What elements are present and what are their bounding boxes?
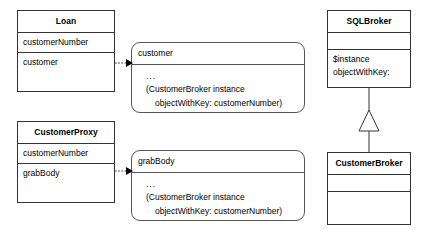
class-title-loan: Loan bbox=[18, 11, 114, 33]
class-attribute: grabBody bbox=[23, 167, 109, 180]
note-line: ... bbox=[146, 70, 298, 84]
class-attributes-customer-proxy: customerNumber bbox=[18, 144, 114, 164]
class-box-loan[interactable]: Loan customerNumber customer bbox=[17, 10, 115, 92]
note-line: objectWithKey: customerNumber) bbox=[146, 205, 298, 219]
note-line: ... bbox=[146, 178, 298, 192]
class-title-customer-proxy: CustomerProxy bbox=[18, 122, 114, 144]
class-box-customer-broker[interactable]: CustomerBroker bbox=[327, 152, 411, 225]
class-operation: objectWithKey: bbox=[333, 66, 405, 79]
note-line: objectWithKey: customerNumber) bbox=[146, 97, 298, 111]
class-box-customer-proxy[interactable]: CustomerProxy customerNumber grabBody bbox=[17, 121, 115, 203]
diagram-canvas: Loan customerNumber customer CustomerPro… bbox=[0, 0, 428, 240]
class-operations-customer-proxy: grabBody bbox=[18, 164, 114, 202]
note-line: (CustomerBroker instance bbox=[146, 191, 298, 205]
note-body-grab-body: ... (CustomerBroker instance objectWithK… bbox=[132, 173, 304, 222]
class-operations-loan: customer bbox=[18, 53, 114, 91]
class-attribute: customer bbox=[23, 56, 109, 69]
note-line: ... bbox=[146, 110, 298, 113]
generalization-triangle-icon bbox=[359, 110, 379, 131]
note-box-grab-body[interactable]: grabBody ... (CustomerBroker instance ob… bbox=[131, 150, 305, 221]
note-body-customer: ... (CustomerBroker instance objectWithK… bbox=[132, 65, 304, 114]
note-header-customer: customer bbox=[132, 43, 304, 65]
note-line: (CustomerBroker instance bbox=[146, 83, 298, 97]
class-attributes-loan: customerNumber bbox=[18, 33, 114, 53]
note-line: ... bbox=[146, 218, 298, 221]
class-attribute: customerNumber bbox=[23, 36, 109, 49]
class-attributes-sql-broker bbox=[328, 33, 410, 50]
note-header-grab-body: grabBody bbox=[132, 151, 304, 173]
class-operations-sql-broker: $instance objectWithKey: bbox=[328, 50, 410, 88]
class-box-sql-broker[interactable]: SQLBroker $instance objectWithKey: bbox=[327, 10, 411, 88]
note-box-customer[interactable]: customer ... (CustomerBroker instance ob… bbox=[131, 42, 305, 113]
class-operation: $instance bbox=[333, 53, 405, 66]
class-attribute: customerNumber bbox=[23, 147, 109, 160]
class-title-customer-broker: CustomerBroker bbox=[328, 153, 410, 175]
class-operations-customer-broker bbox=[328, 192, 410, 225]
class-attributes-customer-broker bbox=[328, 175, 410, 192]
connector-customerbroker-inherits-sqlbroker bbox=[359, 88, 379, 152]
class-title-sql-broker: SQLBroker bbox=[328, 11, 410, 33]
